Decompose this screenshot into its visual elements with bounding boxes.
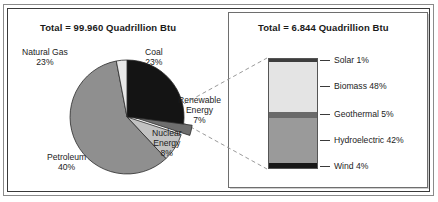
pie-label-petroleum-name: Petroleum [47, 152, 86, 162]
pie-label-natural-gas-value: 23% [22, 57, 68, 67]
bar-tick-biomass [320, 86, 330, 87]
pie-label-renewable-energy-name-1: Renewable [178, 95, 221, 105]
bar-tick-hydroelectric [320, 140, 330, 141]
pie-label-natural-gas-name: Natural Gas [22, 47, 68, 57]
pie-label-nuclear-energy-value: 8% [152, 148, 182, 158]
bar-segment-hydroelectric [269, 118, 317, 163]
pie-slice-coal [127, 60, 184, 124]
pie-label-nuclear-energy-name-2: Energy [152, 138, 182, 148]
energy-consumption-figure: Total = 99.960 Quadrillion Btu Total = 6… [0, 0, 438, 202]
bar-label-hydroelectric: Hydroelectric 42% [334, 135, 404, 145]
pie-label-natural-gas: Natural Gas 23% [22, 47, 68, 67]
pie-label-renewable-energy-value: 7% [178, 115, 221, 125]
bar-label-geothermal: Geothermal 5% [334, 109, 394, 119]
pie-label-renewable-energy: Renewable Energy 7% [178, 95, 221, 126]
bar-label-solar: Solar 1% [334, 55, 369, 65]
right-panel-title: Total = 6.844 Quadrillion Btu [258, 22, 389, 33]
bar-segment-wind [269, 163, 317, 168]
renewable-detail-panel-box [228, 12, 428, 188]
pie-label-coal: Coal 23% [145, 47, 163, 67]
bar-tick-solar [320, 60, 330, 61]
bar-label-wind: Wind 4% [334, 161, 368, 171]
pie-label-nuclear-energy-name-1: Nuclear [152, 128, 182, 138]
pie-label-renewable-energy-name-2: Energy [178, 105, 221, 115]
pie-label-coal-name: Coal [145, 47, 163, 57]
bar-tick-wind [320, 166, 330, 167]
pie-label-petroleum: Petroleum 40% [47, 152, 86, 172]
pie-label-coal-value: 23% [145, 57, 163, 67]
bar-label-biomass: Biomass 48% [334, 81, 387, 91]
left-panel-title: Total = 99.960 Quadrillion Btu [40, 22, 176, 33]
bar-segment-biomass [269, 62, 317, 112]
pie-label-petroleum-value: 40% [47, 162, 86, 172]
pie-label-nuclear-energy: Nuclear Energy 8% [152, 128, 182, 159]
bar-tick-geothermal [320, 114, 330, 115]
renewable-energy-stacked-bar [268, 58, 318, 169]
